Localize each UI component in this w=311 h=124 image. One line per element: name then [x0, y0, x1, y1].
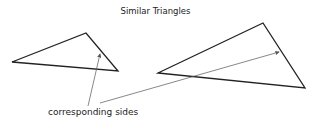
large-triangle — [158, 23, 305, 88]
corresponding-sides-label: corresponding sides — [48, 107, 138, 117]
diagram-canvas — [0, 0, 311, 124]
arrow-to-large-triangle-side — [100, 52, 279, 103]
small-triangle — [12, 33, 118, 71]
similar-triangles-diagram: Similar Triangles corresponding sides — [0, 0, 311, 124]
arrow-to-small-triangle-side — [88, 54, 100, 106]
